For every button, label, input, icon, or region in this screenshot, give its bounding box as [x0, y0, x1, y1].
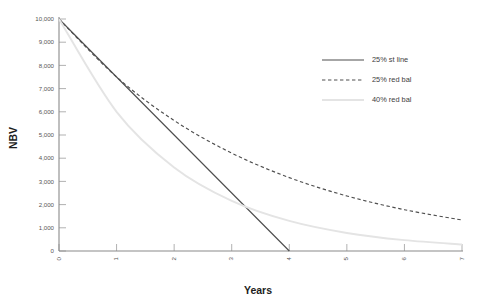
- y-tick-label: 1,000: [39, 224, 55, 231]
- series-line-2: [59, 19, 462, 220]
- y-tick-label: 7,000: [39, 85, 55, 92]
- x-axis-title: Years: [244, 284, 272, 296]
- legend-label-1: 25% st line: [372, 55, 408, 64]
- y-tick-label: 5,000: [39, 131, 55, 138]
- x-tick-label: 6: [400, 256, 407, 260]
- x-tick-label: 5: [342, 256, 349, 260]
- legend-label-3: 40% red bal: [372, 95, 412, 104]
- y-tick-label: 0: [51, 247, 55, 254]
- x-tick-label: 4: [285, 256, 292, 260]
- y-tick-label: 10,000: [35, 15, 54, 22]
- y-axis-title: NBV: [7, 127, 19, 149]
- legend-label-2: 25% red bal: [372, 75, 412, 84]
- chart-canvas: 01,0002,0003,0004,0005,0006,0007,0008,00…: [0, 0, 488, 308]
- y-tick-label: 9,000: [39, 38, 55, 45]
- y-tick-label: 8,000: [39, 62, 55, 69]
- y-tick-label: 6,000: [39, 108, 55, 115]
- y-tick-label: 4,000: [39, 154, 55, 161]
- x-tick-label: 7: [458, 256, 465, 260]
- x-tick-label: 3: [227, 256, 234, 260]
- y-axis-ticks: 01,0002,0003,0004,0005,0006,0007,0008,00…: [35, 15, 66, 254]
- x-tick-label: 2: [170, 256, 177, 260]
- chart-legend: 25% st line25% red bal40% red bal: [322, 55, 412, 104]
- y-tick-label: 2,000: [39, 201, 55, 208]
- x-axis-ticks: 01234567: [55, 244, 465, 260]
- depreciation-chart: 01,0002,0003,0004,0005,0006,0007,0008,00…: [0, 0, 488, 308]
- y-tick-label: 3,000: [39, 178, 55, 185]
- series-lines: [59, 19, 462, 251]
- x-tick-label: 0: [55, 256, 62, 260]
- series-line-3: [59, 19, 462, 245]
- x-tick-label: 1: [112, 256, 119, 260]
- series-line-1: [59, 19, 289, 251]
